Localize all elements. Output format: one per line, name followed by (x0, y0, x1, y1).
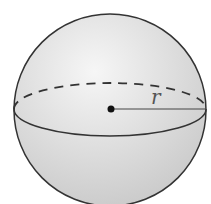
center-point (108, 106, 115, 113)
radius-label: r (151, 85, 162, 109)
sphere-diagram: r (0, 0, 211, 204)
